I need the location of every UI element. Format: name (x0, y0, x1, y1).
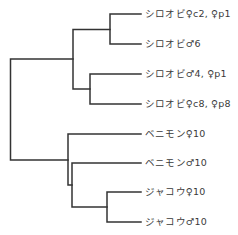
root-branch (11, 59, 74, 160)
shirobi-subclade-2 (90, 74, 141, 104)
leaf-label-benimon-female-10: ベニモン♀10 (145, 128, 205, 140)
leaf-label-benimon-male-10: ベニモン♂10 (145, 157, 207, 169)
shirobi-node (73, 30, 110, 90)
leaf-label-jakou-female-10: ジャコウ♀10 (145, 186, 205, 198)
benimon-jakou-node (68, 134, 141, 185)
leaf-label-shirobi-female-c2-p1: シロオビ♀c2, ♀p1 (145, 8, 231, 20)
leaf-label-jakou-male-10: ジャコウ♂10 (145, 216, 207, 228)
leaf-label-shirobi-female-c8-p8: シロオビ♀c8, ♀p8 (145, 98, 231, 110)
shirobi-subclade-1 (110, 14, 141, 44)
leaf-label-shirobi-male-6: シロオビ♂6 (145, 38, 201, 50)
leaf-label-shirobi-male-4-p1: シロオビ♂4, ♀p1 (145, 68, 227, 80)
dendrogram (0, 0, 238, 235)
jakou-clade (107, 192, 141, 222)
